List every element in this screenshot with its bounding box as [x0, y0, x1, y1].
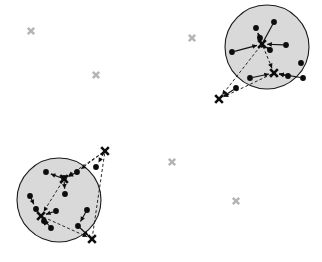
node-point [62, 191, 68, 197]
node-point [84, 207, 90, 213]
node-point [300, 75, 306, 81]
node-point [283, 42, 289, 48]
node-point [33, 206, 39, 212]
node-point [233, 85, 239, 91]
node-point [267, 47, 273, 53]
node-point [75, 223, 81, 229]
node-point [43, 169, 49, 175]
cluster-diagram-svg [0, 0, 322, 262]
node-point [74, 169, 80, 175]
cluster-diagram-canvas [0, 0, 322, 262]
node-point [298, 60, 304, 66]
node-point [48, 225, 54, 231]
node-point [93, 164, 99, 170]
node-point [257, 35, 263, 41]
node-point [27, 193, 33, 199]
cluster-bottom-left [17, 158, 101, 242]
node-point [271, 19, 277, 25]
node-point [253, 25, 259, 31]
node-point [247, 75, 253, 81]
node-point [285, 73, 291, 79]
node-point [229, 49, 235, 55]
node-point [53, 208, 59, 214]
